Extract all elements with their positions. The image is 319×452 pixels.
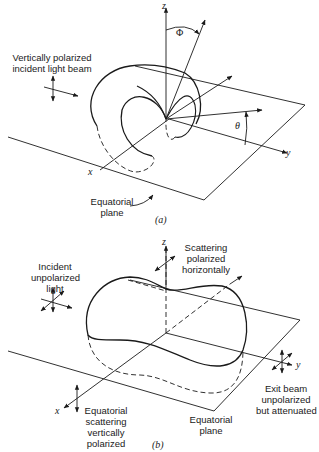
caption-a: (a) bbox=[155, 214, 167, 225]
theta-label: θ bbox=[235, 120, 240, 131]
label-equatorial-scattering: Equatorial scattering vertically polariz… bbox=[80, 405, 132, 449]
phi-label: Φ bbox=[176, 27, 183, 38]
panel-a-graphics bbox=[8, 8, 305, 206]
scatter-direction bbox=[166, 20, 205, 119]
y-axis-a bbox=[169, 119, 287, 153]
incident-beam-arrow bbox=[44, 87, 78, 96]
axis-y-label-b: y bbox=[296, 359, 300, 370]
label-incident-unpolarized: Incident unpolarized light bbox=[31, 261, 79, 294]
label-exit-beam: Exit beam unpolarized but attenuated bbox=[256, 383, 316, 416]
label-equatorial-plane-b: Equatorial plane bbox=[186, 414, 236, 436]
axis-z-label-a: z bbox=[162, 0, 166, 11]
axis-x-label-a: x bbox=[88, 166, 92, 177]
theta-arc bbox=[245, 112, 247, 145]
axis-y-label-a: y bbox=[286, 147, 290, 158]
label-equatorial-plane-a: Equatorial plane bbox=[88, 196, 136, 218]
label-vertically-polarized-beam: Vertically polarized incident light beam bbox=[11, 52, 93, 74]
axis-x-label-b: x bbox=[55, 405, 59, 416]
diagram-canvas: Vertically polarized incident light beam… bbox=[0, 0, 319, 452]
label-scattering-horizontal: Scattering polarized horizontally bbox=[176, 242, 236, 275]
caption-b: (b) bbox=[152, 439, 164, 450]
scattering-pattern bbox=[86, 277, 246, 366]
axis-z-label-b: z bbox=[162, 236, 166, 247]
x-axis-a bbox=[100, 119, 169, 170]
